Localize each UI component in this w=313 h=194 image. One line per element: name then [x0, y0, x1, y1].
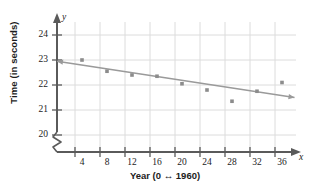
y-tick-label: 23 — [26, 54, 48, 64]
x-tick-label: 12 — [121, 157, 143, 167]
x-tick-label: 16 — [146, 157, 168, 167]
x-axis-title: Year (0 ↔ 1960) — [40, 170, 290, 181]
x-axis — [57, 148, 301, 156]
x-tick-label: 32 — [246, 157, 268, 167]
x-tick-label: 24 — [196, 157, 218, 167]
data-point — [280, 81, 284, 85]
y-axis-variable-label: y — [62, 12, 66, 22]
data-point — [255, 89, 259, 93]
data-point — [155, 74, 159, 78]
x-tick-label: 20 — [171, 157, 193, 167]
y-axis-title: Time (in seconds) — [8, 3, 19, 123]
data-point — [205, 88, 209, 92]
gridlines-horizontal — [57, 35, 296, 135]
x-tick-label: 4 — [71, 157, 93, 167]
x-axis-variable-label: x — [299, 152, 303, 162]
y-tick-label: 24 — [26, 29, 48, 39]
data-point — [230, 99, 234, 103]
x-tick-label: 28 — [221, 157, 243, 167]
gridlines-vertical — [75, 22, 275, 152]
trend-line — [57, 60, 295, 100]
data-point — [80, 58, 84, 62]
y-tick-label: 20 — [26, 129, 48, 139]
x-tick-label: 8 — [96, 157, 118, 167]
data-point — [105, 69, 109, 73]
data-point — [180, 82, 184, 86]
scatter-plot-figure: Time (in seconds) Year (0 ↔ 1960) y x 20… — [0, 0, 313, 194]
y-tick-label: 21 — [26, 104, 48, 114]
x-tick-label: 36 — [271, 157, 293, 167]
y-tick-label: 22 — [26, 79, 48, 89]
y-axis — [53, 13, 61, 152]
data-point — [130, 73, 134, 77]
